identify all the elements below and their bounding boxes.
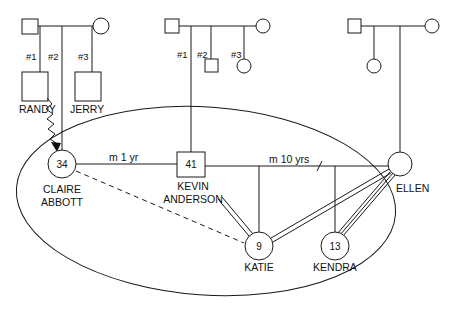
jerry-label: JERRY — [70, 103, 104, 115]
claire-last-name: ABBOTT — [41, 196, 84, 208]
kendra-label: KENDRA — [313, 261, 357, 273]
kevin-last-name: ANDERSON — [163, 193, 223, 205]
katie-label: KATIE — [244, 261, 274, 273]
jerry-symbol — [75, 72, 101, 101]
kevin-mother-symbol — [256, 19, 270, 33]
genogram-diagram: #1 #2 #3 RANDY JERRY #1 #2 #3 m 1 yr m 1… — [0, 0, 455, 311]
claire-kevin-marriage-label: m 1 yr — [109, 151, 139, 163]
birth-order-2-middle: #2 — [197, 49, 208, 60]
birth-order-1-middle: #1 — [177, 49, 188, 60]
birth-order-3-middle: #3 — [231, 49, 242, 60]
birth-order-3-left: #3 — [78, 51, 89, 62]
kevin-brother-symbol — [205, 59, 218, 72]
kevin-ellen-marriage-label: m 10 yrs — [269, 153, 309, 165]
claire-katie-distant-line — [76, 171, 244, 243]
claire-age: 34 — [56, 159, 68, 170]
family-claire-parents: #1 #2 #3 RANDY JERRY — [19, 18, 109, 150]
family-kevin-parents: #1 #2 #3 — [165, 19, 270, 152]
ellen-symbol — [388, 152, 412, 176]
ellen-sister-symbol — [367, 59, 381, 73]
claire-mother-symbol — [93, 18, 109, 34]
claire-first-name: CLAIRE — [43, 183, 81, 195]
ellen-kendra-very-close-line-a — [337, 172, 390, 234]
kevin-sister-symbol — [237, 59, 251, 73]
kevin-age: 41 — [185, 159, 197, 170]
birth-order-2-left: #2 — [48, 51, 59, 62]
kevin-first-name: KEVIN — [177, 180, 209, 192]
ellen-label: ELLEN — [396, 182, 429, 194]
birth-order-1-left: #1 — [26, 51, 37, 62]
ellen-katie-close-line-b — [273, 173, 391, 242]
kevin-father-symbol — [165, 19, 179, 33]
randy-label: RANDY — [19, 103, 56, 115]
claire-father-symbol — [22, 19, 38, 34]
family-ellen-parents — [348, 19, 439, 152]
ellen-kendra-very-close-line-c — [343, 174, 396, 236]
kevin-katie-close-line-b — [222, 197, 253, 234]
ellen-mother-symbol — [425, 19, 439, 33]
randy-symbol — [22, 72, 48, 101]
kendra-age: 13 — [329, 241, 341, 252]
katie-age: 9 — [256, 241, 262, 252]
ellen-father-symbol — [348, 19, 361, 33]
